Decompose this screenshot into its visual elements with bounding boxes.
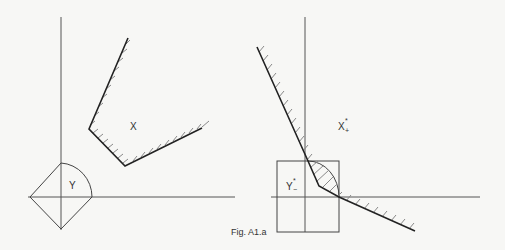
- right-label-x: X * +: [338, 117, 349, 134]
- right-label-y-sub: −: [293, 186, 297, 193]
- left-panel: X Y: [28, 17, 235, 230]
- right-label-y: Y * −: [286, 177, 297, 193]
- figure-canvas: X Y: [0, 0, 505, 250]
- right-boundary-hatching: [259, 46, 414, 229]
- left-set-x-boundary: [89, 38, 209, 166]
- left-label-x: X: [130, 121, 137, 132]
- right-label-x-sup: *: [345, 117, 348, 124]
- right-label-x-sub: +: [345, 127, 349, 134]
- right-label-y-sup: *: [293, 177, 296, 184]
- right-label-x-main: X: [338, 121, 345, 132]
- figure-caption: Fig. A1.a: [231, 227, 267, 237]
- left-label-y: Y: [69, 180, 76, 191]
- right-label-y-main: Y: [286, 181, 293, 192]
- right-set-x-boundary: [257, 47, 415, 231]
- right-panel: X * + Y * −: [257, 17, 480, 232]
